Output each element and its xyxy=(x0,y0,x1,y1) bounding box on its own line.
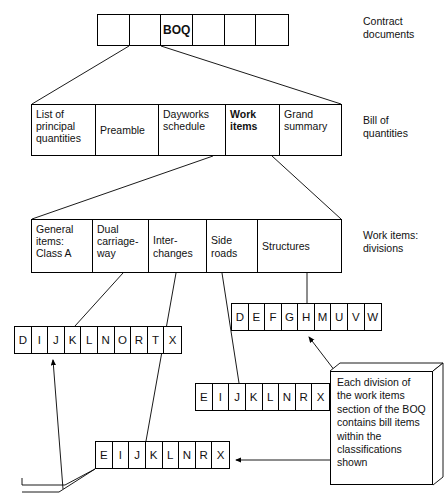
letter-cell[interactable]: I xyxy=(32,327,49,353)
letter-cell[interactable]: J xyxy=(48,327,65,353)
division-cell-interchanges[interactable]: Inter- changes xyxy=(149,220,207,272)
letter-cell[interactable]: N xyxy=(179,442,196,468)
bill-cell-preamble[interactable]: Preamble xyxy=(96,105,159,155)
bill-cell-grand-summary[interactable]: Grand summary xyxy=(280,105,341,155)
connector-workitems-to-divisions xyxy=(32,156,341,219)
letter-cell[interactable]: K xyxy=(246,384,263,410)
letter-row-interchanges: E I J K L N R X xyxy=(95,441,230,469)
letter-cell[interactable]: X xyxy=(312,384,329,410)
contract-documents-row: BOQ xyxy=(97,14,289,46)
connector-dualcarriageway-to-letters xyxy=(146,273,176,441)
letter-cell[interactable]: U xyxy=(331,304,348,330)
division-cell-side-roads[interactable]: Side roads xyxy=(207,220,258,272)
letter-cell[interactable]: O xyxy=(115,327,132,353)
letter-cell[interactable]: J xyxy=(229,384,246,410)
arrow-note-to-structures xyxy=(309,337,335,371)
letter-cell[interactable]: M xyxy=(315,304,332,330)
contract-cell-6[interactable] xyxy=(256,15,288,45)
work-items-divisions-row: General items: Class A Dual carriage- wa… xyxy=(31,219,342,273)
letter-cell[interactable]: F xyxy=(265,304,282,330)
note-box: Each division of the work items section … xyxy=(330,371,433,485)
letter-cell[interactable]: K xyxy=(146,442,163,468)
connector-generalitems-to-letters xyxy=(75,273,123,326)
contract-cell-1[interactable] xyxy=(98,15,130,45)
letter-cell[interactable]: N xyxy=(98,327,115,353)
letter-row-structures: D E F G H M U V W xyxy=(231,303,382,331)
letter-cell[interactable]: J xyxy=(129,442,146,468)
stage-label-bill-of-quantities: Bill of quantities xyxy=(363,114,408,140)
letter-cell[interactable]: L xyxy=(263,384,280,410)
bill-of-quantities-row: List of principal quantities Preamble Da… xyxy=(31,104,342,156)
letter-cell[interactable]: R xyxy=(296,384,313,410)
letter-cell[interactable]: N xyxy=(279,384,296,410)
diagram-canvas: BOQ List of principal quantities Preambl… xyxy=(0,0,446,500)
contract-cell-boq[interactable]: BOQ xyxy=(161,15,193,45)
letter-cell[interactable]: X xyxy=(212,442,229,468)
arrow-bottom-to-generalitems xyxy=(22,469,95,492)
stage-label-contract-documents: Contract documents xyxy=(363,15,414,41)
letter-cell[interactable]: R xyxy=(131,327,148,353)
arrow-to-generalitems-letters xyxy=(53,360,63,489)
division-cell-general-items-class-a[interactable]: General items: Class A xyxy=(32,220,93,272)
letter-row-side-roads: E I J K L N R X xyxy=(195,383,330,411)
letter-cell[interactable]: I xyxy=(113,442,130,468)
bill-cell-dayworks-schedule[interactable]: Dayworks schedule xyxy=(159,105,226,155)
letter-cell[interactable]: E xyxy=(196,384,213,410)
connector-boq-to-bill xyxy=(32,46,341,104)
division-cell-structures[interactable]: Structures xyxy=(258,220,341,272)
bill-cell-list-of-principal-quantities[interactable]: List of principal quantities xyxy=(32,105,96,155)
letter-cell[interactable]: R xyxy=(196,442,213,468)
contract-cell-5[interactable] xyxy=(225,15,257,45)
letter-cell[interactable]: G xyxy=(282,304,299,330)
letter-cell[interactable]: W xyxy=(365,304,382,330)
division-cell-dual-carriageway[interactable]: Dual carriage- way xyxy=(93,220,149,272)
letter-cell[interactable]: E xyxy=(249,304,266,330)
letter-cell[interactable]: L xyxy=(163,442,180,468)
letter-cell[interactable]: K xyxy=(65,327,82,353)
letter-cell[interactable]: I xyxy=(213,384,230,410)
letter-cell[interactable]: L xyxy=(81,327,98,353)
letter-row-general-items-class-a: D I J K L N O R T X xyxy=(14,326,182,354)
letter-cell[interactable]: H xyxy=(298,304,315,330)
stage-label-work-items-divisions: Work items: divisions xyxy=(363,229,418,255)
letter-cell[interactable]: D xyxy=(232,304,249,330)
letter-cell[interactable]: E xyxy=(96,442,113,468)
contract-cell-2[interactable] xyxy=(130,15,162,45)
letter-cell[interactable]: T xyxy=(148,327,165,353)
bill-cell-work-items[interactable]: Work items xyxy=(226,105,280,155)
letter-cell[interactable]: V xyxy=(348,304,365,330)
letter-cell[interactable]: D xyxy=(15,327,32,353)
letter-cell[interactable]: X xyxy=(164,327,181,353)
contract-cell-4[interactable] xyxy=(193,15,225,45)
